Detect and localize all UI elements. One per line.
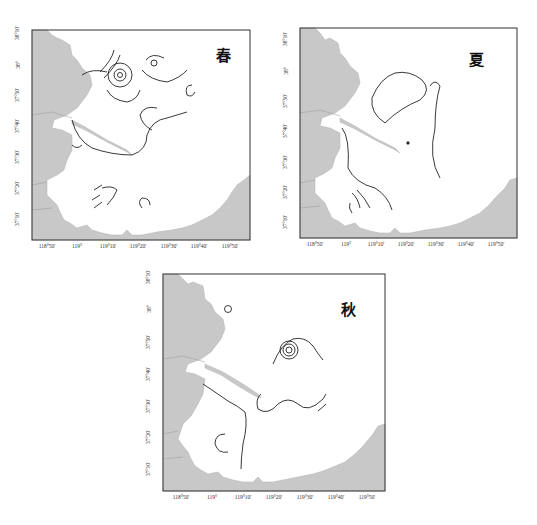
contour-lines (72, 50, 195, 208)
y-tick: 38°10' (14, 26, 20, 40)
y-tick: 38° (15, 61, 21, 69)
x-tick: 119°20' (130, 243, 147, 249)
x-tick: 119°50' (222, 243, 239, 249)
y-tick: 38°10' (145, 270, 151, 284)
x-tick: 119°30' (161, 243, 178, 249)
y-tick: 37°50' (14, 88, 20, 102)
y-tick: 37°50' (145, 335, 151, 349)
x-tick: 118°50' (173, 494, 190, 500)
y-tick: 38° (283, 67, 289, 75)
x-tick: 119°20' (398, 241, 415, 247)
x-tick: 119°40' (328, 494, 345, 500)
y-tick: 37°40' (282, 124, 288, 138)
x-tick: 119°30' (428, 241, 445, 247)
x-tick: 118°50' (39, 243, 56, 249)
x-tick: 119° (341, 241, 351, 247)
river-channel (72, 120, 132, 155)
y-tick: 37°40' (145, 367, 151, 381)
season-label: 秋 (341, 298, 356, 319)
season-label: 夏 (469, 48, 484, 69)
y-tick: 37°20' (145, 430, 151, 444)
x-tick: 119°50' (488, 241, 505, 247)
y-tick: 37°30' (282, 155, 288, 169)
map-spring: 春 118°50' 119° 119°10' 119°20' 119°30' 1… (32, 30, 250, 240)
x-tick: 119°10' (368, 241, 385, 247)
map-summer: 夏 118°50' 119° 119°10' 119°20' 119°30' 1… (300, 28, 517, 238)
contour-lines (342, 72, 440, 213)
x-tick: 119°40' (191, 243, 208, 249)
y-tick: 37°20' (14, 181, 20, 195)
x-tick: 119° (207, 494, 217, 500)
y-tick: 37°10' (145, 462, 151, 476)
x-tick: 119° (72, 243, 82, 249)
y-tick: 38° (146, 305, 152, 313)
x-tick: 119°20' (266, 494, 283, 500)
y-tick: 37°20' (282, 185, 288, 199)
river-channel (340, 118, 400, 153)
season-label: 春 (216, 44, 231, 65)
y-tick: 37°10' (14, 212, 20, 226)
x-tick: 119°10' (100, 243, 117, 249)
x-tick: 119°50' (359, 494, 376, 500)
y-tick: 37°50' (282, 94, 288, 108)
river-channel (205, 364, 261, 398)
map-summer-canvas (300, 28, 517, 238)
x-tick: 119°40' (458, 241, 475, 247)
y-tick: 37°30' (14, 150, 20, 164)
y-tick: 37°30' (145, 399, 151, 413)
y-tick: 37°40' (14, 119, 20, 133)
x-tick: 118°50' (307, 241, 324, 247)
x-tick: 119°30' (297, 494, 314, 500)
y-tick: 38°10' (282, 32, 288, 46)
map-autumn: 秋 118°50' 119° 119°10' 119°20' 119°30' 1… (163, 274, 385, 491)
y-tick: 37°10' (282, 215, 288, 229)
land-mass (300, 28, 517, 238)
x-tick: 119°10' (235, 494, 252, 500)
